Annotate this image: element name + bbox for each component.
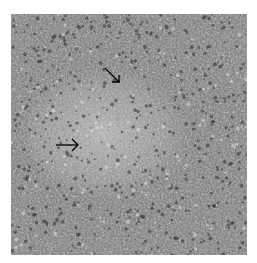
cell bbox=[141, 183, 143, 185]
cell bbox=[218, 152, 220, 154]
cell bbox=[99, 97, 101, 99]
cell bbox=[178, 160, 180, 162]
cell bbox=[210, 118, 213, 121]
cell bbox=[174, 57, 176, 59]
cell bbox=[71, 244, 73, 246]
cell bbox=[94, 172, 98, 176]
cell bbox=[111, 109, 113, 111]
cell bbox=[14, 246, 18, 250]
cell bbox=[100, 126, 104, 130]
cell bbox=[42, 121, 45, 124]
cell bbox=[225, 171, 227, 173]
cell bbox=[144, 169, 147, 172]
cell bbox=[77, 80, 80, 83]
cell bbox=[125, 56, 128, 59]
cell bbox=[99, 217, 101, 219]
cell bbox=[66, 107, 68, 109]
cell bbox=[233, 57, 236, 60]
cell bbox=[96, 186, 98, 188]
cell bbox=[49, 151, 53, 155]
cell bbox=[188, 94, 192, 98]
cell bbox=[207, 87, 209, 89]
tissue-image bbox=[11, 14, 247, 255]
cell bbox=[152, 240, 156, 244]
cell bbox=[202, 16, 206, 20]
cell bbox=[101, 141, 103, 143]
cell bbox=[201, 82, 203, 84]
cell bbox=[204, 52, 207, 55]
cell bbox=[231, 243, 233, 245]
cell bbox=[197, 147, 201, 151]
cell bbox=[151, 212, 153, 214]
cell bbox=[135, 251, 138, 254]
pale-region bbox=[26, 69, 196, 199]
cell bbox=[105, 165, 109, 169]
cell bbox=[62, 36, 65, 39]
cell bbox=[134, 67, 137, 70]
cell bbox=[174, 18, 177, 21]
cell bbox=[24, 239, 28, 243]
cell bbox=[243, 196, 247, 200]
cell bbox=[157, 246, 159, 248]
cell bbox=[81, 114, 83, 116]
cell bbox=[129, 63, 131, 65]
cell bbox=[36, 83, 39, 86]
cell bbox=[99, 167, 102, 170]
cell bbox=[75, 105, 77, 107]
cell bbox=[87, 159, 89, 161]
cell bbox=[226, 134, 229, 137]
cell bbox=[68, 49, 71, 52]
cell bbox=[164, 237, 167, 240]
cell bbox=[93, 35, 95, 37]
cell bbox=[145, 173, 148, 176]
cell bbox=[68, 83, 70, 85]
cell bbox=[50, 63, 52, 65]
cell bbox=[201, 109, 204, 112]
cell bbox=[135, 29, 139, 33]
cell bbox=[58, 137, 60, 139]
cell bbox=[202, 68, 204, 70]
cell bbox=[145, 93, 147, 95]
cell bbox=[103, 173, 105, 175]
cell bbox=[174, 154, 176, 156]
cell bbox=[117, 195, 121, 199]
cell bbox=[241, 121, 245, 125]
cell bbox=[51, 40, 54, 43]
cell bbox=[185, 51, 188, 54]
cell bbox=[203, 240, 205, 242]
cell bbox=[42, 145, 45, 148]
cell bbox=[95, 121, 98, 124]
cell bbox=[29, 98, 31, 100]
cell bbox=[207, 17, 211, 21]
cell bbox=[80, 125, 83, 128]
cell bbox=[40, 91, 43, 94]
cell bbox=[238, 33, 241, 36]
cell bbox=[152, 133, 155, 136]
cell bbox=[157, 209, 160, 212]
cell bbox=[220, 223, 222, 225]
cell bbox=[98, 83, 102, 87]
cell bbox=[75, 47, 79, 51]
cell bbox=[114, 99, 118, 103]
cell bbox=[141, 21, 143, 23]
cell bbox=[140, 252, 142, 254]
cell bbox=[70, 155, 73, 158]
cell bbox=[88, 137, 91, 140]
cell bbox=[105, 62, 109, 66]
cell bbox=[27, 205, 29, 207]
cell bbox=[95, 77, 99, 81]
cell bbox=[229, 162, 232, 165]
cell bbox=[15, 78, 19, 82]
cell bbox=[205, 113, 207, 115]
cell bbox=[191, 38, 193, 40]
cell bbox=[114, 188, 118, 192]
cell bbox=[62, 128, 66, 132]
cell bbox=[16, 217, 18, 219]
cell bbox=[217, 242, 219, 244]
cell bbox=[147, 54, 151, 58]
cell bbox=[204, 25, 206, 27]
cell bbox=[138, 221, 141, 224]
cell bbox=[30, 90, 32, 92]
cell bbox=[85, 17, 88, 20]
cell bbox=[103, 24, 107, 28]
